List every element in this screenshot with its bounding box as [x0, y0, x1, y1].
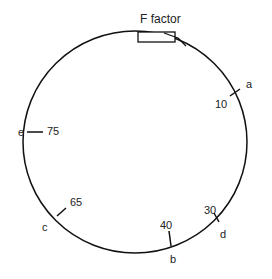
gene-label-a: a [246, 79, 252, 90]
gene-label-e: e [18, 127, 24, 138]
circular-chromosome [23, 31, 247, 253]
tick-c [57, 208, 66, 216]
tick-a [230, 89, 240, 96]
minutes-label-b: 40 [160, 220, 172, 231]
gene-label-b: b [170, 254, 176, 265]
minutes-label-d: 30 [204, 205, 216, 216]
f-factor-label: F factor [140, 13, 181, 25]
gene-label-c: c [42, 222, 48, 233]
gene-label-d: d [220, 229, 226, 240]
minutes-label-a: 10 [215, 99, 227, 110]
tick-b [169, 231, 171, 246]
f-factor-box [138, 32, 175, 42]
chromosome-map [0, 0, 272, 279]
minutes-label-c: 65 [70, 197, 82, 208]
minutes-label-e: 75 [47, 126, 59, 137]
